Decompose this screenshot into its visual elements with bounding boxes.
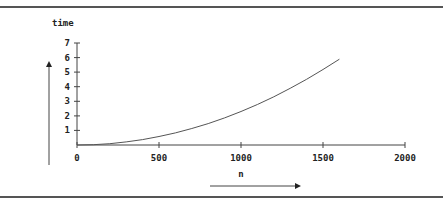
time-curve	[77, 59, 339, 145]
x-tick-1000: 1000	[230, 153, 252, 163]
y-tick-4: 4	[65, 82, 71, 92]
y-axis-label: time	[52, 18, 74, 28]
right-arrow-icon	[210, 183, 301, 189]
x-tick-2000: 2000	[394, 153, 416, 163]
up-arrow-icon	[46, 61, 52, 165]
x-tick-1500: 1500	[312, 153, 334, 163]
y-tick-1: 1	[65, 125, 70, 135]
x-tick-0: 0	[74, 153, 79, 163]
x-axis-label: n	[238, 169, 243, 179]
y-tick-3: 3	[65, 96, 70, 106]
y-tick-7: 7	[65, 38, 70, 48]
chart: 7 6 5 4 3 2 1 time 0 500 1000 1500 2000 …	[0, 0, 443, 201]
y-tick-6: 6	[65, 53, 70, 63]
x-tick-500: 500	[151, 153, 167, 163]
y-tick-5: 5	[65, 67, 70, 77]
y-tick-2: 2	[65, 111, 70, 121]
